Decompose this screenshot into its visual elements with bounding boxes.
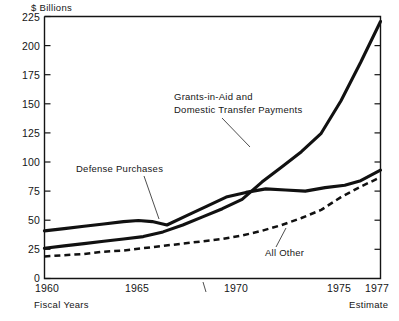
y-axis-ticks	[45, 17, 51, 279]
x-label-1965: 1965	[125, 282, 149, 294]
x-label-1960: 1960	[35, 282, 59, 294]
y-label-175: 175	[22, 69, 40, 81]
series-grants-in-aid	[44, 22, 380, 249]
y-label-75: 75	[28, 185, 40, 197]
annotation-grants-label-line1: Grants-in-Aid and	[174, 91, 253, 102]
y-label-150: 150	[22, 98, 40, 110]
x-axis-title: Fiscal Years	[34, 299, 89, 310]
y-label-50: 50	[28, 214, 40, 226]
annotation-all-other-leader	[276, 228, 286, 247]
series-all-other	[44, 177, 380, 256]
estimate-note: Estimate	[349, 299, 388, 310]
annotation-grants-leader	[222, 118, 250, 147]
y-label-225: 225	[22, 11, 40, 23]
y-label-125: 125	[22, 127, 40, 139]
x-label-1970: 1970	[224, 282, 248, 294]
annotation-defense-purchases-label: Defense Purchases	[76, 163, 163, 174]
series-defense-purchases	[44, 170, 380, 231]
print-artifact-mark	[203, 282, 206, 292]
y-label-25: 25	[28, 243, 40, 255]
x-axis-tick-labels: 1960 1965 1970 1975 1977	[35, 282, 389, 294]
x-label-1977: 1977	[365, 282, 389, 294]
y-label-100: 100	[22, 156, 40, 168]
y-axis-tick-labels: 225 200 175 150 125 100 75 50 25 0	[22, 11, 40, 285]
y-label-200: 200	[22, 40, 40, 52]
annotation-all-other-label: All Other	[265, 247, 304, 258]
annotation-grants-label-line2: Domestic Transfer Payments	[174, 104, 302, 115]
axes-box	[45, 17, 381, 279]
line-chart: $ Billions	[0, 0, 399, 321]
plot-frame	[45, 17, 381, 279]
chart-container: $ Billions	[0, 0, 399, 321]
annotation-defense-purchases-leader	[144, 176, 159, 219]
right-axis-ticks	[375, 46, 381, 250]
x-label-1975: 1975	[327, 282, 351, 294]
